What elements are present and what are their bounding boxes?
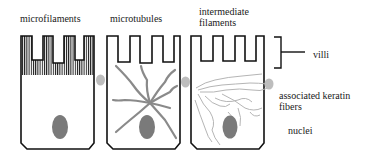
cell-microfilaments: [21, 36, 94, 149]
nucleus: [223, 116, 238, 139]
diagram-canvas: [0, 0, 374, 164]
cell-intermediate-filaments: [191, 36, 268, 149]
nucleus: [139, 115, 155, 139]
junction: [96, 75, 105, 86]
junction: [265, 79, 274, 90]
villi-bracket: [274, 37, 305, 68]
cell-microtubules: [107, 36, 180, 149]
junction: [181, 77, 190, 88]
nucleus: [52, 115, 68, 139]
